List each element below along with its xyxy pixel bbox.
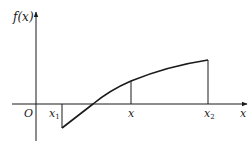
x1-label-subscript: 1 [55,113,59,121]
x2-label: x2 [204,107,215,121]
function-graph: f(x) O x1 x x2 x [0,0,252,146]
x-axis-label: x [240,107,247,120]
x2-label-subscript: 2 [210,113,214,121]
x1-label: x1 [49,107,60,121]
x-label: x [128,107,135,120]
y-axis-label: f(x) [12,10,34,24]
origin-label: O [24,107,33,120]
function-curve [62,60,208,128]
